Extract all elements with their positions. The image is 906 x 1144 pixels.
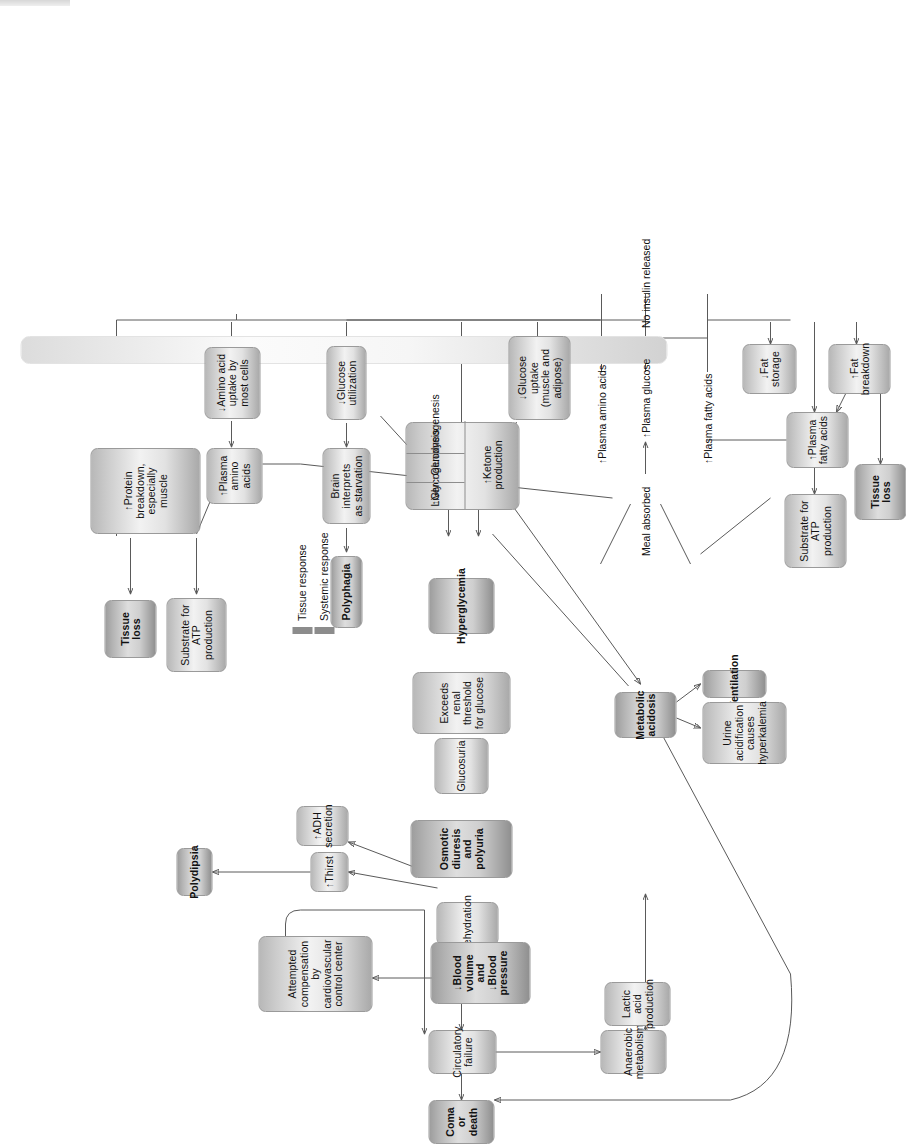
node-dehydration[interactable]: Dehydration	[436, 902, 498, 946]
legend-swatch-systemic	[314, 627, 334, 634]
label-meal-absorbed: Meal absorbed	[639, 487, 651, 556]
node-substrate-atp-bottom[interactable]: Substrate for ATP production	[784, 494, 846, 568]
node-fat-breakdown[interactable]: ↑Fat breakdown	[828, 344, 890, 394]
liver-gluconeogenesis: ↑Gluconeogenesis	[406, 421, 464, 454]
node-glucosuria[interactable]: Glucosuria	[434, 738, 488, 794]
node-anaerobic-metabolism[interactable]: Anaerobic metabolism	[600, 1030, 666, 1074]
node-plasma-amino-acids[interactable]: ↑Plasma amino acids	[206, 448, 262, 504]
legend-label-tissue: Tissue response	[295, 544, 307, 621]
node-liver[interactable]: Liver ↑Glycogenolysis ↑Gluconeogenesis ↑…	[405, 422, 519, 510]
node-protein-breakdown[interactable]: ↑Protein breakdown, especially muscle	[90, 448, 200, 534]
legend-swatch-tissue	[292, 627, 312, 634]
node-fat-storage[interactable]: ↓Fat storage	[742, 344, 796, 394]
node-lactic-acid-production[interactable]: Lactic acid production	[604, 982, 670, 1026]
node-plasma-fatty-acids[interactable]: ↑Plasma fatty acids	[786, 412, 848, 468]
node-substrate-atp-top[interactable]: Substrate for ATP production	[166, 598, 226, 672]
node-hyperglycemia[interactable]: Hyperglycemia	[428, 578, 494, 634]
node-polyphagia[interactable]: Polyphagia	[330, 556, 362, 628]
legend-label-systemic: Systemic response	[317, 532, 329, 621]
node-osmotic-diuresis[interactable]: Osmotic diuresis and polyuria	[410, 820, 512, 878]
wire-fatbreak-to-plasma-ffa	[836, 394, 845, 412]
node-ventilation[interactable]: ↑Ventilation	[702, 670, 766, 698]
node-thirst[interactable]: ↑Thirst	[310, 852, 348, 892]
label-no-insulin-released: No insulin released	[639, 239, 651, 328]
node-brain-starvation[interactable]: Brain interprets as starvation	[322, 448, 370, 524]
node-blood-volume-pressure[interactable]: ↓Blood volume and ↓Blood pressure	[430, 942, 530, 1004]
node-metabolic-acidosis[interactable]: Metabolic acidosis	[614, 692, 676, 738]
label-plasma-glucose: ↑Plasma glucose	[639, 359, 651, 438]
node-exceeds-renal[interactable]: Exceeds renal threshold for glucose	[412, 672, 510, 734]
node-amino-acid-uptake[interactable]: ↓Amino acid uptake by most cells	[204, 347, 260, 419]
node-adh-secretion[interactable]: ↑ADH secretion	[296, 806, 348, 846]
label-plasma-fatty-acids: ↑Plasma fatty acids	[701, 374, 713, 464]
wire-substrate-diag	[700, 498, 770, 554]
liver-divider-v1	[406, 482, 464, 483]
node-tissue-loss-bottom[interactable]: Tissue loss	[854, 464, 906, 520]
node-coma-or-death[interactable]: Coma or death	[428, 1100, 494, 1144]
node-glucose-utilization[interactable]: ↓Glucose utilization	[326, 346, 366, 420]
node-glucose-uptake[interactable]: ↓Glucose uptake (muscle and adipose)	[508, 336, 570, 420]
liver-divider-h	[464, 421, 465, 509]
node-tissue-loss-top[interactable]: Tissue loss	[104, 600, 156, 658]
node-urine-acidification[interactable]: Urine acidification causes hyperkalemia	[702, 702, 786, 764]
label-plasma-amino-acids: ↑Plasma amino acids	[595, 365, 607, 464]
node-polydipsia[interactable]: Polydipsia	[176, 848, 212, 896]
node-circulatory-failure[interactable]: Circulatory failure	[428, 1030, 496, 1074]
liver-ketone-production: ↑Ketone production	[464, 421, 520, 509]
node-attempted-compensation[interactable]: Attempted compensation by cardiovascular…	[258, 936, 372, 1012]
liver-divider-v2	[406, 453, 464, 454]
